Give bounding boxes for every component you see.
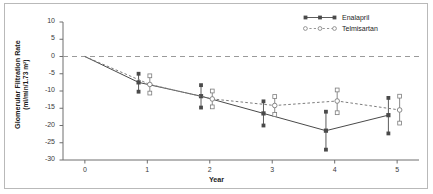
ci-cap-lower <box>148 91 152 95</box>
ci-cap-upper <box>137 72 141 76</box>
legend-marker-telmisartan <box>303 24 337 33</box>
data-point-enalapril <box>261 111 265 115</box>
data-point-telmisartan <box>335 99 340 104</box>
figure-container: Glomerular Filtration Rate (ml/min/1.73 … <box>0 0 433 194</box>
data-point-enalapril <box>136 80 140 84</box>
ci-cap-upper <box>398 94 402 98</box>
ci-cap-lower <box>386 132 390 136</box>
y-tick-label: -20 <box>29 121 55 128</box>
y-tick-label: -5 <box>29 69 55 76</box>
series-line-telmisartan <box>85 57 400 110</box>
legend-label-telmisartan: Telmisartan <box>342 25 378 32</box>
x-axis-label: Year <box>0 175 433 184</box>
chart-legend: Enalapril Telmisartan <box>303 12 378 34</box>
data-point-telmisartan <box>272 103 277 108</box>
y-tick-label: 0 <box>29 52 55 59</box>
legend-item-enalapril: Enalapril <box>303 12 378 23</box>
x-tick-label: 3 <box>261 166 283 173</box>
legend-item-telmisartan: Telmisartan <box>303 23 378 34</box>
ci-cap-lower <box>324 148 328 152</box>
series-line-enalapril <box>85 57 389 131</box>
y-tick-label: -15 <box>29 103 55 110</box>
x-tick-label: 0 <box>74 166 96 173</box>
ci-cap-upper <box>148 74 152 78</box>
ci-cap-upper <box>386 96 390 100</box>
x-tick-label: 5 <box>386 166 408 173</box>
ci-cap-upper <box>273 95 277 99</box>
ci-cap-lower <box>137 90 141 94</box>
legend-label-enalapril: Enalapril <box>342 14 369 21</box>
ci-cap-lower <box>273 113 277 117</box>
ci-cap-upper <box>262 99 266 103</box>
y-tick-label: -10 <box>29 86 55 93</box>
data-point-enalapril <box>324 129 328 133</box>
data-point-telmisartan <box>397 108 402 113</box>
x-tick-label: 2 <box>199 166 221 173</box>
data-point-enalapril <box>386 113 390 117</box>
ci-cap-upper <box>210 89 214 93</box>
ci-cap-lower <box>210 105 214 109</box>
data-point-telmisartan <box>148 82 153 87</box>
data-point-telmisartan <box>210 97 215 102</box>
ci-cap-upper <box>199 83 203 87</box>
ci-cap-upper <box>324 110 328 114</box>
legend-marker-enalapril <box>303 13 337 22</box>
y-tick-label: -25 <box>29 138 55 145</box>
ci-cap-lower <box>199 106 203 110</box>
ci-cap-lower <box>335 111 339 115</box>
y-tick-label: 10 <box>29 17 55 24</box>
y-tick-label: -30 <box>29 155 55 162</box>
x-tick-label: 4 <box>324 166 346 173</box>
y-tick-label: 5 <box>29 34 55 41</box>
ci-cap-upper <box>335 88 339 92</box>
ci-cap-lower <box>262 124 266 128</box>
ci-cap-lower <box>398 121 402 125</box>
x-tick-label: 1 <box>136 166 158 173</box>
